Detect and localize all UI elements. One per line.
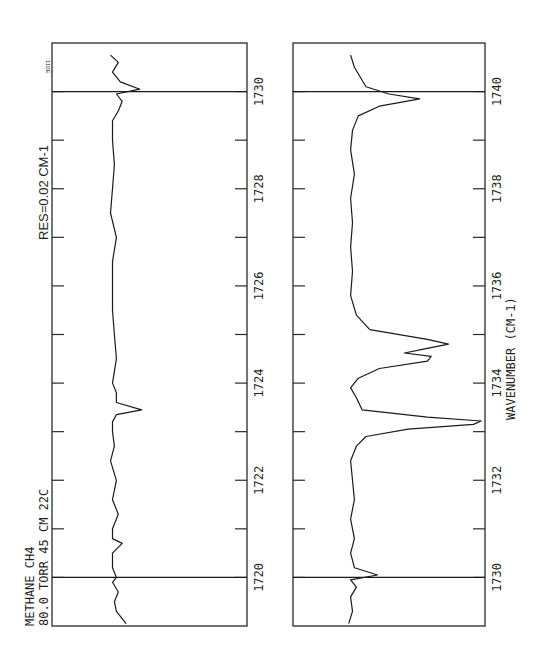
- panel-2-frame: [293, 43, 485, 626]
- tick-label: 1736: [490, 271, 504, 300]
- tick-label: 1722: [252, 466, 266, 495]
- panel-1-tick-labels: 172017221724172617281730: [252, 77, 266, 592]
- corner-mark: 110E: [45, 60, 51, 74]
- panel-1-spectrum-trace: [111, 55, 142, 624]
- sample-label-line2: 80.0 TORR 45 CM 22C: [37, 489, 51, 626]
- tick-label: 1732: [490, 466, 504, 495]
- panel-2-ticks: [293, 92, 485, 578]
- tick-label: 1740: [490, 77, 504, 106]
- panel-2-tick-labels: 173017321734173617381740: [490, 77, 504, 592]
- sample-label-line1: METHANE CH4: [23, 547, 37, 626]
- panel-1720-1730: 172017221724172617281730: [52, 43, 266, 626]
- panel-1-reference-lines: [52, 92, 247, 578]
- tick-label: 1730: [252, 77, 266, 106]
- panel-2-reference-lines: [293, 92, 485, 578]
- panel-1-ticks: [52, 92, 247, 578]
- tick-label: 1738: [490, 174, 504, 203]
- tick-label: 1726: [252, 271, 266, 300]
- tick-label: 1734: [490, 369, 504, 398]
- spectrum-figure: 172017221724172617281730 173017321734173…: [0, 0, 547, 657]
- panel-1-frame: [52, 43, 247, 626]
- panel-1730-1740: 173017321734173617381740: [293, 43, 504, 626]
- tick-label: 1730: [490, 563, 504, 592]
- panel-2-spectrum-trace: [349, 55, 482, 624]
- x-axis-label: WAVENUMBER (CM-1): [504, 297, 518, 420]
- tick-label: 1728: [252, 174, 266, 203]
- resolution-label: RES=0.02 CM-1: [36, 145, 51, 240]
- tick-label: 1724: [252, 369, 266, 398]
- tick-label: 1720: [252, 563, 266, 592]
